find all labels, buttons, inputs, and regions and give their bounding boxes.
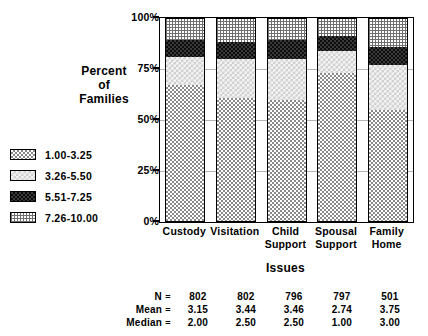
bar-family-home [368,18,408,222]
stats-cell-median-spousal-support: 1.00 [318,317,366,328]
bar-segment-family-home-3.26-5.50 [368,65,408,110]
bar-segment-visitation-3.26-5.50 [216,59,256,98]
x-axis-tick-labels: CustodyVisitationChildSupportSpousalSupp… [159,225,412,259]
statistics-table: N=802802796797501Mean=3.153.443.462.743.… [86,291,416,330]
bar-segment-spousal-support-1.00-3.25 [317,73,357,222]
bar-segment-custody-3.26-5.50 [165,57,205,86]
plot-inner [160,18,413,222]
stats-row-separator: = [162,292,174,302]
stats-cell-median-custody: 2.00 [174,317,222,328]
bar-segment-child-support-1.00-3.25 [267,100,307,222]
stats-row-separator: = [162,305,174,315]
stats-cell-n-custody: 802 [174,291,222,302]
stacked-bar-chart-figure: Percent of Families 1.00-3.25 3.26-5.50 … [0,0,428,336]
bar-segment-visitation-5.51-7.25 [216,42,256,58]
stats-row-separator: = [162,318,174,328]
stats-cell-median-visitation: 2.50 [222,317,270,328]
bar-segment-custody-7.26-10.00 [165,18,205,40]
stats-row-label: Mean [86,304,162,315]
stats-row-label: N [86,291,162,302]
x-tick-label-family-home: FamilyHome [356,225,418,250]
legend-label-1: 3.26-5.50 [45,170,92,182]
stats-cell-mean-custody: 3.15 [174,304,222,315]
legend-label-0: 1.00-3.25 [45,149,92,161]
stats-cell-mean-child-support: 3.46 [270,304,318,315]
legend-swatch-icon-1 [10,170,36,181]
stats-cell-n-child-support: 796 [270,291,318,302]
stats-row-label: Median [86,317,162,328]
stats-cell-median-family-home: 3.00 [366,317,414,328]
bar-segment-spousal-support-3.26-5.50 [317,51,357,73]
y-axis: 0%25%50%75%100% [113,0,159,336]
legend-label-2: 5.51-7.25 [45,191,92,203]
stats-row-mean: Mean=3.153.443.462.743.75 [86,304,416,317]
stats-cell-mean-visitation: 3.44 [222,304,270,315]
stats-cell-median-child-support: 2.50 [270,317,318,328]
bar-segment-family-home-7.26-10.00 [368,18,408,47]
bar-segment-child-support-3.26-5.50 [267,59,307,100]
stats-row-n: N=802802796797501 [86,291,416,304]
stats-cell-mean-family-home: 3.75 [366,304,414,315]
stats-row-median: Median=2.002.502.501.003.00 [86,317,416,330]
stats-cell-n-spousal-support: 797 [318,291,366,302]
bar-spousal-support [317,18,357,222]
bar-segment-spousal-support-7.26-10.00 [317,18,357,36]
stats-cell-n-visitation: 802 [222,291,270,302]
bar-child-support [267,18,307,222]
bar-segment-family-home-5.51-7.25 [368,47,408,65]
bar-segment-visitation-7.26-10.00 [216,18,256,42]
bar-segment-custody-1.00-3.25 [165,85,205,222]
bar-visitation [216,18,256,222]
legend-swatch-icon-3 [10,212,36,223]
bar-segment-child-support-7.26-10.00 [267,18,307,40]
bar-segment-family-home-1.00-3.25 [368,110,408,222]
bar-segment-visitation-1.00-3.25 [216,98,256,222]
legend-swatch-icon-2 [10,191,36,202]
legend-label-3: 7.26-10.00 [45,212,98,224]
x-axis-title: Issues [159,261,412,275]
x-tick-label-line: Home [356,238,418,251]
bar-custody [165,18,205,222]
bar-segment-spousal-support-5.51-7.25 [317,36,357,50]
bar-segment-child-support-5.51-7.25 [267,40,307,58]
stats-cell-mean-spousal-support: 2.74 [318,304,366,315]
plot-area [159,17,414,223]
stats-cell-n-family-home: 501 [366,291,414,302]
legend-swatch-icon-0 [10,149,36,160]
x-tick-label-line: Family [356,225,418,238]
bar-segment-custody-5.51-7.25 [165,40,205,56]
